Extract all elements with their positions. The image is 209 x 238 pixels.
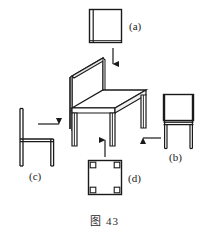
figure-container: (a) (b) (c) (d) 图 43 [0, 0, 209, 238]
view-d-drawing [89, 161, 122, 195]
chair-leg-front-right [110, 113, 115, 146]
view-label-a: (a) [129, 21, 141, 32]
view-label-d: (d) [128, 173, 141, 184]
technical-drawing-canvas [0, 0, 209, 238]
chair-leg-back-right [141, 95, 146, 128]
view-a-drawing [90, 10, 122, 43]
view-b-drawing [164, 95, 194, 149]
view-label-b: (b) [169, 152, 182, 163]
view-c-drawing [20, 109, 54, 167]
isometric-chair-drawing [70, 58, 146, 146]
figure-caption: 图 43 [0, 212, 209, 228]
view-label-c: (c) [29, 171, 41, 182]
chair-leg-front-left [72, 113, 77, 146]
